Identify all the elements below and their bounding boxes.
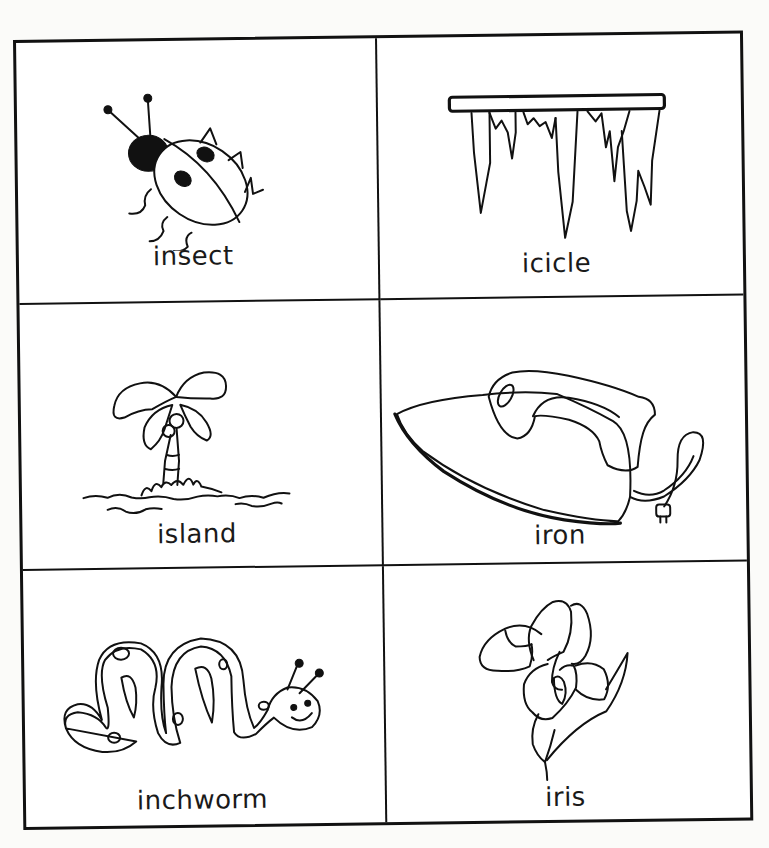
- worksheet: insect icicle: [13, 30, 753, 829]
- card-island: island: [19, 300, 383, 571]
- palm-island-icon: [79, 363, 306, 516]
- ladybug-insect-icon: [101, 90, 273, 252]
- word-label: inchworm: [23, 782, 385, 817]
- card-iron: iron: [380, 295, 746, 566]
- card-icicle: icicle: [377, 33, 743, 300]
- word-label: iron: [380, 517, 746, 552]
- card-inchworm: inchworm: [23, 566, 387, 827]
- card-iris: iris: [384, 561, 750, 822]
- word-label: island: [19, 516, 381, 551]
- icicle-icon: [445, 90, 672, 243]
- inchworm-icon: [60, 635, 332, 769]
- word-label: iris: [384, 779, 750, 814]
- picture-word-grid: insect icicle: [13, 30, 753, 829]
- word-label: insect: [16, 238, 378, 273]
- iris-flower-icon: [474, 593, 651, 785]
- word-label: icicle: [377, 245, 743, 280]
- clothes-iron-icon: [391, 336, 723, 530]
- card-insect: insect: [16, 38, 380, 305]
